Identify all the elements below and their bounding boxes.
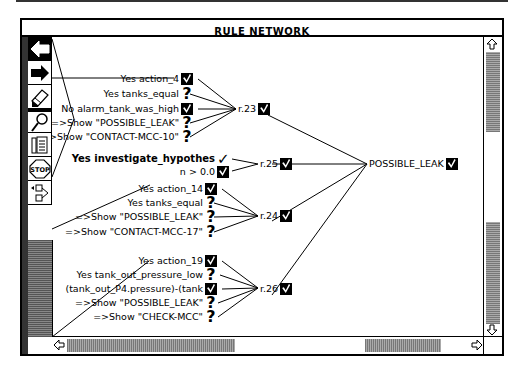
tree-icon (30, 183, 50, 203)
scroll-track-lower[interactable] (486, 222, 500, 324)
condition-label: =>Show "POSSIBLE_LEAK" (75, 211, 203, 223)
rule-network-canvas[interactable]: Yes action_4 Yes tanks_equal ? No alarm_… (52, 37, 484, 337)
condition-node[interactable]: =>Show "CONTACT-MCC-17" ? (65, 226, 217, 238)
condition-label: No alarm_tank_was_high (61, 103, 179, 115)
condition-node[interactable]: No alarm_tank_was_high (61, 103, 193, 115)
tick-icon: ✓ (217, 153, 229, 165)
condition-label: Yes tanks_equal (104, 88, 179, 100)
screen-top-edge (16, 0, 508, 2)
stop-button[interactable]: STOP (28, 157, 52, 181)
condition-label: Yes tank_out_pressure_low (77, 269, 204, 281)
condition-node[interactable]: Yes action_19 (139, 255, 217, 267)
back-button[interactable] (28, 37, 52, 61)
condition-node[interactable]: Yes tanks_equal ? (128, 197, 217, 209)
svg-text:STOP: STOP (30, 166, 50, 174)
scroll-track-right[interactable] (365, 339, 441, 352)
condition-label: n > 0.0 (180, 166, 215, 178)
rule-label: r.24 (260, 210, 278, 222)
checked-icon (280, 210, 292, 222)
condition-label: Yes investigate_hypothes (72, 153, 215, 165)
condition-label: =>Show "CONTACT-MCC-17" (65, 226, 203, 238)
rule-label: r.23 (238, 103, 256, 115)
scroll-down-button[interactable] (485, 323, 499, 337)
window-title: RULE NETWORK (214, 26, 310, 37)
rule-node-r25[interactable]: r.25 (260, 158, 292, 170)
condition-node[interactable]: =>Show "CHECK-MCC" ? (93, 311, 217, 323)
condition-node[interactable]: n > 0.0 (180, 166, 229, 178)
condition-node[interactable]: =>Show "POSSIBLE_LEAK" ? (75, 297, 217, 309)
condition-node[interactable]: Yes action_14 (139, 183, 217, 195)
magnifier-icon (30, 112, 50, 132)
condition-node[interactable]: =>Show "POSSIBLE_LEAK" ? (75, 211, 217, 223)
vertical-scrollbar[interactable] (483, 37, 502, 337)
eraser-button[interactable] (28, 85, 52, 109)
condition-label: =>Show "POSSIBLE_LEAK" (52, 117, 179, 129)
arrow-left-icon (53, 339, 65, 351)
horizontal-scrollbar[interactable] (52, 336, 484, 354)
forward-button[interactable] (28, 61, 52, 85)
rule-label: r.26 (260, 283, 278, 295)
question-icon: ? (205, 226, 217, 238)
condition-label: Yes action_4 (121, 73, 179, 85)
arrow-right-icon (471, 339, 483, 351)
rule-node-r23[interactable]: r.23 (238, 103, 270, 115)
title-bar[interactable]: RULE NETWORK (22, 20, 502, 37)
tool-palette: STOP (28, 37, 52, 205)
scroll-track-upper[interactable] (486, 52, 500, 132)
checked-icon (217, 166, 229, 178)
goal-node[interactable]: POSSIBLE_LEAK (369, 158, 458, 170)
scroll-left-button[interactable] (52, 338, 66, 352)
question-icon: ? (205, 269, 217, 281)
condition-node[interactable]: (tank_out_P4.pressure)-(tank (65, 283, 217, 295)
goal-label: POSSIBLE_LEAK (369, 158, 444, 170)
condition-label: =>Show "CHECK-MCC" (93, 311, 203, 323)
palette-filler (28, 240, 53, 337)
condition-label: Yes action_14 (139, 183, 203, 195)
condition-node[interactable]: Yes tank_out_pressure_low ? (77, 269, 218, 281)
checked-icon (258, 103, 270, 115)
arrow-up-icon (486, 38, 498, 50)
eraser-icon (30, 87, 50, 107)
scroll-up-button[interactable] (485, 37, 499, 51)
notes-button[interactable] (28, 133, 52, 157)
condition-node[interactable]: Yes tanks_equal ? (104, 88, 193, 100)
question-icon: ? (181, 88, 193, 100)
condition-label: =>Show "POSSIBLE_LEAK" (75, 297, 203, 309)
scroll-right-button[interactable] (470, 338, 484, 352)
tree-button[interactable] (28, 181, 52, 205)
rule-node-r26[interactable]: r.26 (260, 283, 292, 295)
question-icon: ? (205, 311, 217, 323)
back-arrow-icon (30, 40, 50, 58)
magnifier-button[interactable] (28, 109, 52, 133)
arrow-down-icon (486, 324, 498, 336)
condition-node[interactable]: =>Show "POSSIBLE_LEAK" ? (52, 117, 193, 129)
checked-icon (446, 158, 458, 170)
notes-icon (30, 135, 50, 155)
rule-node-r24[interactable]: r.24 (260, 210, 292, 222)
question-icon: ? (181, 131, 193, 143)
forward-arrow-icon (30, 64, 50, 82)
scroll-track-left[interactable] (67, 339, 235, 352)
condition-node[interactable]: =>Show "CONTACT-MCC-10" ? (52, 131, 193, 143)
stop-icon: STOP (29, 159, 51, 179)
condition-label: (tank_out_P4.pressure)-(tank (65, 283, 203, 295)
condition-node[interactable]: Yes investigate_hypothes ✓ (72, 153, 229, 165)
rule-network-window: RULE NETWORK (20, 18, 504, 356)
condition-label: Yes tanks_equal (128, 197, 203, 209)
checked-icon (280, 283, 292, 295)
condition-label: =>Show "CONTACT-MCC-10" (52, 131, 179, 143)
condition-label: Yes action_19 (139, 255, 203, 267)
rule-label: r.25 (260, 158, 278, 170)
checked-icon (280, 158, 292, 170)
scroll-corner (483, 336, 502, 354)
